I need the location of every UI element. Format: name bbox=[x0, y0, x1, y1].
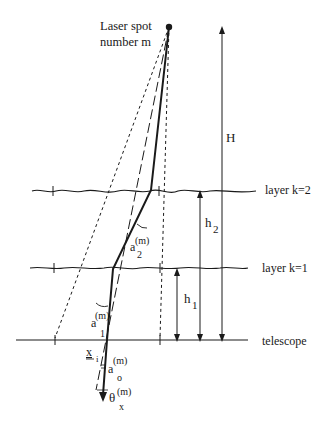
h1-label-base: h bbox=[184, 291, 191, 306]
a2-label-sup: (m) bbox=[135, 235, 149, 247]
telescope-label: telescope bbox=[262, 334, 307, 348]
a1-label-sub: 1 bbox=[100, 328, 105, 339]
a1-label-sup: (m) bbox=[95, 310, 109, 322]
laser-spot bbox=[166, 24, 172, 30]
layer-k2-label: layer k=2 bbox=[265, 183, 311, 197]
laser-guide-star-diagram: Laser spot number m H layer k=2 layer k=… bbox=[0, 0, 325, 431]
layer-k1-label: layer k=1 bbox=[262, 261, 308, 275]
xi-label-base: x bbox=[86, 345, 92, 359]
angle-arc-a1 bbox=[96, 303, 108, 307]
laser-spot-label-line2: number m bbox=[100, 35, 151, 49]
laser-spot-label-line1: Laser spot bbox=[100, 19, 152, 33]
h2-label-sub: 2 bbox=[213, 223, 219, 235]
a0-label-sub: o bbox=[117, 372, 122, 383]
h2-label-base: h bbox=[205, 215, 212, 230]
h1-label-sub: 1 bbox=[192, 299, 198, 311]
a0-label-sup: (m) bbox=[113, 355, 127, 367]
a2-label-sub: 2 bbox=[137, 249, 142, 260]
layer-k1-line bbox=[30, 267, 248, 269]
theta-arrowhead bbox=[99, 392, 107, 402]
theta-label-sup: (m) bbox=[117, 386, 131, 398]
theta-label-sub: x bbox=[119, 401, 124, 412]
theta-label-base: θ bbox=[109, 390, 115, 405]
angle-arc-a2 bbox=[137, 224, 147, 228]
H-label: H bbox=[226, 130, 235, 145]
xi-label-sub: i bbox=[96, 354, 99, 364]
